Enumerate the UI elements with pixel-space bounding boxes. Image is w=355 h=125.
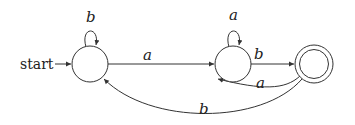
dfa-diagram: start b a a b a b: [0, 0, 355, 125]
edge-label-q0-q1: a: [143, 46, 152, 64]
edge-label-q2-q1: a: [256, 74, 265, 92]
state-q2-inner-ring: [300, 50, 329, 79]
edge-label-q0-q0: b: [86, 8, 96, 26]
state-q0: [72, 46, 108, 82]
edge-label-q2-q0: b: [199, 100, 209, 118]
edge-q0-q0: [85, 31, 97, 47]
edge-label-q1-q2: b: [254, 45, 264, 63]
edge-label-q1-q1: a: [229, 6, 238, 24]
start-label: start: [20, 56, 54, 72]
state-q1: [215, 46, 251, 82]
edge-q1-q1: [228, 31, 240, 47]
